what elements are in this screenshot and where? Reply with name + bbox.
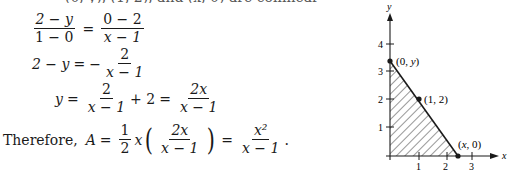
x-axis-arrow-icon bbox=[490, 153, 499, 159]
y-tick-1: 1 bbox=[378, 122, 383, 133]
y-axis-label: y bbox=[386, 1, 392, 12]
label-0-y: (0, y) bbox=[396, 55, 420, 68]
label-1-2: (1, 2) bbox=[424, 93, 448, 106]
y-axis-arrow-icon bbox=[387, 13, 393, 21]
triangle-figure: y x 1 2 3 1 2 3 4 (0, y) (1, 2) (x, 0) bbox=[0, 0, 525, 176]
y-tick-4: 4 bbox=[378, 39, 383, 50]
point-0-y bbox=[387, 58, 392, 63]
x-tick-1: 1 bbox=[416, 161, 421, 172]
point-1-2 bbox=[416, 96, 421, 101]
x-tick-2: 2 bbox=[443, 161, 448, 172]
y-tick-2: 2 bbox=[378, 94, 383, 105]
label-x-0: (x, 0) bbox=[458, 138, 482, 151]
x-tick-3: 3 bbox=[469, 161, 474, 172]
x-axis-label: x bbox=[501, 150, 507, 161]
point-x-0 bbox=[455, 153, 460, 158]
y-tick-3: 3 bbox=[378, 66, 383, 77]
